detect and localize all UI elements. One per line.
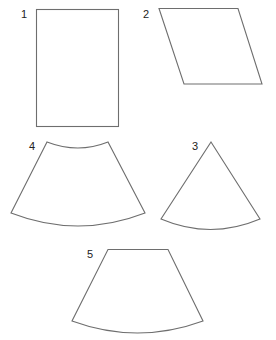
shape-5-label: 5: [87, 248, 93, 260]
curved-trapezoid-shape: [72, 250, 203, 334]
shape-5: 5: [72, 248, 203, 333]
shape-1: 1: [21, 8, 119, 127]
sector-shape: [161, 142, 260, 230]
shape-4: 4: [11, 140, 145, 226]
shape-2-label: 2: [143, 8, 149, 20]
parallelogram-shape: [159, 9, 262, 85]
rectangle-shape: [37, 10, 119, 127]
shape-4-label: 4: [29, 140, 35, 152]
annular-sector-shape: [11, 142, 145, 226]
shape-2: 2: [143, 8, 262, 84]
shape-1-label: 1: [21, 8, 27, 20]
shape-3-label: 3: [192, 140, 198, 152]
shapes-diagram: 1 2 4 3 5: [0, 0, 276, 340]
shape-3: 3: [161, 140, 260, 230]
